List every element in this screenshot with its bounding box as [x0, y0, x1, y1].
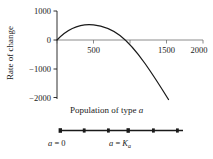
x-tick-label-2000: 2000	[191, 45, 208, 55]
number-line-dot-4	[152, 128, 155, 132]
nl-right-K-subscript: a	[128, 143, 131, 149]
number-line-label-a-equals-Ka: a = Ka	[109, 138, 131, 149]
x-tick-label-500: 500	[87, 45, 100, 55]
number-line-dot-2	[107, 128, 110, 132]
y-tick-label-neg1000: −1000	[29, 64, 51, 74]
y-tick-label-0: 0	[47, 35, 51, 45]
number-line-label-a-equals-0: a = 0	[48, 138, 66, 148]
number-line-dot-5	[176, 128, 179, 132]
number-line-dot-3	[127, 128, 130, 133]
x-axis-title-prefix: Population of type	[70, 105, 139, 115]
x-axis-title: Population of type a	[70, 105, 144, 115]
number-line-dot-1	[83, 128, 86, 132]
y-tick-label-neg2000: −2000	[29, 93, 51, 103]
data-curve-rate-of-change	[57, 25, 169, 100]
number-line-dot-0	[59, 128, 62, 133]
x-axis-title-variable: a	[139, 105, 144, 115]
figure-container: 1000 0 −1000 −2000 500 1500 2000 Rate of…	[0, 0, 213, 159]
rate-of-change-chart: 1000 0 −1000 −2000 500 1500 2000 Rate of…	[0, 0, 213, 159]
y-tick-label-1000: 1000	[34, 6, 51, 16]
x-tick-label-1500: 1500	[158, 45, 175, 55]
nl-left-eq: = 0	[52, 138, 65, 148]
y-axis-title: Rate of change	[5, 26, 15, 80]
nl-right-eq: =	[113, 138, 122, 148]
